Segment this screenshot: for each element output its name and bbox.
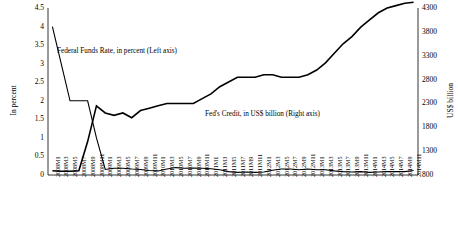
chart-container: In percent US$ billion 00.511.522.533.54… [0, 0, 458, 229]
annotation-federal-funds-rate: Federal Funds Rate, in percent (Left axi… [57, 47, 177, 55]
annotation-feds-credit: Fed's Credit, in US$ billion (Right axis… [205, 110, 320, 118]
series-line-feds-credit [52, 2, 413, 171]
